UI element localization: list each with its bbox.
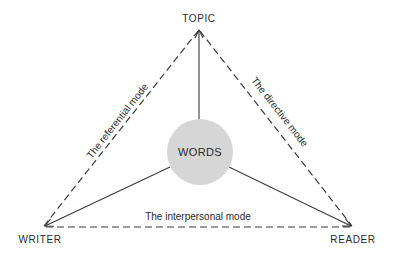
communication-triangle-diagram: WORDS TOPIC WRITER READER The referentia… [0,0,397,256]
directive-mode-label: The directive mode [249,75,310,149]
interpersonal-mode-label: The interpersonal mode [145,211,251,222]
referential-mode-edge [44,31,198,226]
words-label: WORDS [178,146,222,158]
referential-mode-label: The referential mode [84,81,150,161]
writer-label: WRITER [18,234,61,245]
topic-label: TOPIC [182,13,215,24]
reader-label: READER [330,234,375,245]
